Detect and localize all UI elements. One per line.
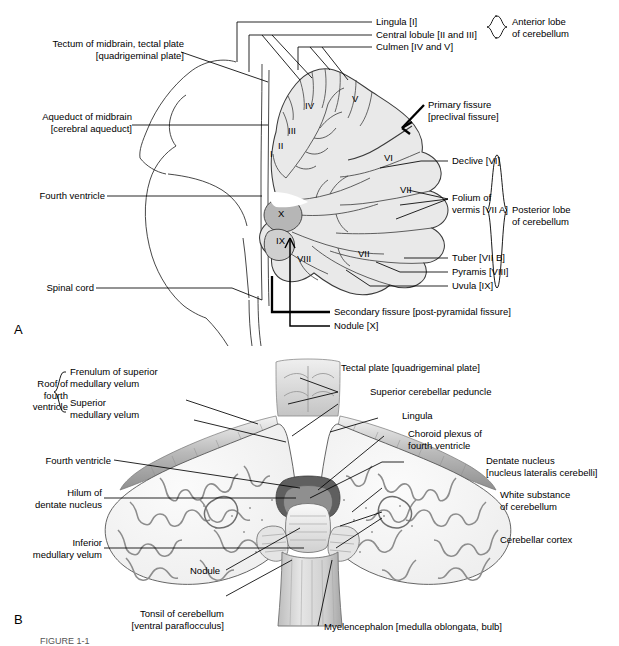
label-tectal-plate: Tectal plate [quadrigeminal plate] [341, 362, 480, 374]
label-pyramis: Pyramis [VIII] [452, 266, 508, 278]
roman-numeral-VIIa: VII [400, 184, 412, 195]
label-aqueduct-of-midbrain: Aqueduct of midbrain [cerebral aqueduct] [10, 111, 132, 134]
label-fourth-ventricle-b: Fourth ventricle [8, 455, 111, 467]
panel-marker-b: B [14, 612, 23, 627]
roman-numeral-IV: IV [305, 100, 314, 111]
label-frenulum-superior-medullary-velum: Frenulum of superior medullary velum [70, 366, 188, 389]
roman-numeral-V: V [352, 93, 358, 104]
label-lingula: Lingula [I] [376, 16, 417, 28]
panel-a-braces [487, 16, 507, 288]
label-choroid-plexus: Choroid plexus of fourth ventricle [408, 428, 528, 451]
roman-numeral-VI: VI [384, 152, 393, 163]
label-cerebellar-cortex: Cerebellar cortex [500, 534, 572, 546]
figure-caption: FIGURE 1-1 [40, 636, 90, 646]
label-central-lobule: Central lobule [II and III] [376, 29, 477, 41]
label-dentate-nucleus: Dentate nucleus [nucleus lateralis cereb… [486, 455, 618, 478]
label-posterior-lobe: Posterior lobe of cerebellum [512, 204, 608, 227]
roman-numeral-VIII: VIII [297, 253, 311, 264]
label-white-substance: White substance of cerebellum [500, 489, 610, 512]
label-hilum-of-dentate-nucleus: Hilum of dentate nucleus [8, 487, 102, 510]
label-tuber: Tuber [VII B] [452, 252, 505, 264]
label-culmen: Culmen [IV and V] [376, 41, 453, 53]
roman-numeral-VIIb: VII [358, 248, 370, 259]
label-nodule-a: Nodule [X] [334, 320, 378, 332]
label-primary-fissure: Primary fissure [preclival fissure] [428, 99, 538, 122]
label-tonsil-of-cerebellum: Tonsil of cerebellum [ventral parafloccu… [96, 608, 224, 631]
nodule-b-shape [286, 504, 331, 553]
roman-numeral-II: II [278, 140, 283, 151]
roman-numeral-I: I [270, 148, 273, 159]
label-anterior-lobe: Anterior lobe of cerebellum [512, 16, 608, 39]
label-myelencephalon: Myelencephalon [medulla oblongata, bulb] [324, 621, 502, 633]
roman-numeral-X: X [278, 208, 284, 219]
roman-numeral-IX: IX [276, 235, 285, 246]
label-lingula-b: Lingula [402, 410, 433, 422]
label-fourth-ventricle: Fourth ventricle [10, 190, 105, 202]
panel-marker-a: A [14, 322, 23, 337]
label-nodule-b: Nodule [190, 565, 220, 577]
label-declive: Declive [VI] [452, 155, 500, 167]
roman-numeral-III: III [288, 125, 296, 136]
label-roof-of-fourth-ventricle: Roof of fourth ventricle [8, 378, 68, 413]
label-spinal-cord: Spinal cord [10, 282, 94, 294]
label-tectum-of-midbrain: Tectum of midbrain, tectal plate [quadri… [14, 38, 184, 61]
label-inferior-medullary-velum: Inferior medullary velum [8, 537, 102, 560]
label-uvula: Uvula [IX] [452, 280, 493, 292]
label-superior-cerebellar-peduncle: Superior cerebellar peduncle [370, 386, 491, 398]
panel-a-artwork [96, 16, 507, 346]
label-superior-medullary-velum: Superior medullary velum [70, 397, 188, 420]
label-secondary-fissure: Secondary fissure [post-pyramidal fissur… [334, 306, 511, 318]
